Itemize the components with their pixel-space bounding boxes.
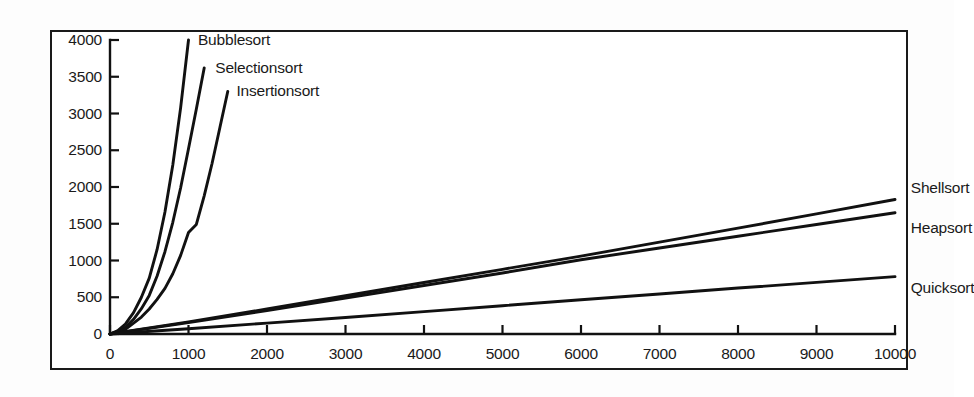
x-tick-label-5: 5000 <box>486 345 520 363</box>
x-tick-label-2: 2000 <box>250 345 284 363</box>
x-tick-label-1: 1000 <box>172 345 206 363</box>
chart-frame-border <box>50 30 908 370</box>
y-tick-label-0: 0 <box>52 325 102 343</box>
x-tick-label-9: 9000 <box>800 345 834 363</box>
series-label-selectionsort: Selectionsort <box>215 59 302 77</box>
y-tick-label-7: 3500 <box>52 68 102 86</box>
x-tick-label-6: 6000 <box>564 345 598 363</box>
y-tick-label-8: 4000 <box>52 31 102 49</box>
y-tick-label-6: 3000 <box>52 105 102 123</box>
series-label-bubblesort: Bubblesort <box>198 31 270 49</box>
y-tick-label-1: 500 <box>52 288 102 306</box>
x-tick-label-7: 7000 <box>643 345 677 363</box>
series-label-quicksort: Quicksort <box>911 279 974 297</box>
y-tick-label-5: 2500 <box>52 141 102 159</box>
x-tick-label-3: 3000 <box>329 345 363 363</box>
x-tick-label-8: 8000 <box>721 345 755 363</box>
series-label-insertionsort: Insertionsort <box>236 82 319 100</box>
x-tick-label-10: 10000 <box>874 345 916 363</box>
y-tick-label-4: 2000 <box>52 178 102 196</box>
y-tick-label-3: 1500 <box>52 215 102 233</box>
y-tick-label-2: 1000 <box>52 252 102 270</box>
series-label-shellsort: Shellsort <box>911 179 970 197</box>
series-label-heapsort: Heapsort <box>911 219 972 237</box>
x-tick-label-4: 4000 <box>407 345 441 363</box>
x-tick-label-0: 0 <box>106 345 114 363</box>
